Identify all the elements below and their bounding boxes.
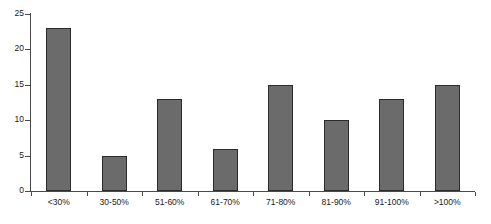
x-axis-tick: [198, 192, 199, 196]
y-axis-tick-label-text: 15: [2, 80, 24, 89]
bar: [379, 99, 404, 191]
y-axis-tick-label: 20: [0, 44, 24, 54]
y-axis-tick: [25, 191, 30, 192]
x-axis-tick: [364, 192, 365, 196]
y-axis-tick: [25, 49, 30, 50]
y-axis-tick-label: 5: [0, 151, 24, 161]
x-axis-category-label: 61-70%: [198, 198, 254, 207]
y-axis-tick-label: 15: [0, 80, 24, 90]
x-axis-category-label: <30%: [31, 198, 87, 207]
x-axis-category-label: 71-80%: [253, 198, 309, 207]
y-axis-tick-label-text: 25: [2, 9, 24, 18]
y-axis-tick: [25, 85, 30, 86]
x-axis-tick: [420, 192, 421, 196]
x-axis-tick: [253, 192, 254, 196]
bar: [46, 28, 71, 191]
y-axis-tick: [25, 156, 30, 157]
bar: [157, 99, 182, 191]
y-axis-tick: [25, 120, 30, 121]
x-axis-tick: [309, 192, 310, 196]
x-axis-category-label: 30-50%: [87, 198, 143, 207]
y-axis-tick-label-text: 10: [2, 115, 24, 124]
x-axis-tick: [142, 192, 143, 196]
y-axis-tick-label: 10: [0, 115, 24, 125]
x-axis-tick: [475, 192, 476, 196]
y-axis-tick-label: 25: [0, 9, 24, 19]
y-axis-tick-label-text: 20: [2, 44, 24, 53]
y-axis-tick-label-text: 5: [2, 151, 24, 160]
x-axis-category-label: 81-90%: [309, 198, 365, 207]
plot-area: [31, 14, 475, 191]
bar: [435, 85, 460, 191]
bar: [268, 85, 293, 191]
bar-chart: 0510152025 <30%30-50%51-60%61-70%71-80%8…: [0, 0, 491, 224]
bar: [324, 120, 349, 191]
x-axis-category-label: 51-60%: [142, 198, 198, 207]
x-axis-tick: [31, 192, 32, 196]
y-axis-tick-label-text: 0: [2, 186, 24, 195]
x-axis-category-label: >100%: [420, 198, 476, 207]
x-axis-category-label: 91-100%: [364, 198, 420, 207]
bar: [213, 149, 238, 191]
bar: [102, 156, 127, 191]
y-axis-tick-label: 0: [0, 186, 24, 196]
y-axis-tick: [25, 14, 30, 15]
x-axis-tick: [87, 192, 88, 196]
